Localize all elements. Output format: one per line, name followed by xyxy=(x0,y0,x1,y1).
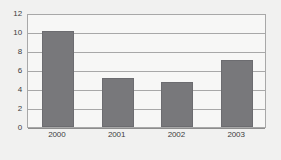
bar-2000 xyxy=(42,31,74,127)
y-axis-tick-label: 10 xyxy=(2,29,22,37)
x-axis-tick-label: 2001 xyxy=(108,131,125,139)
y-axis-tick-label: 6 xyxy=(2,67,22,75)
bar-2003 xyxy=(221,60,253,127)
plot-area xyxy=(27,14,266,128)
y-axis-tick-label: 4 xyxy=(2,86,22,94)
y-axis-tick-label: 2 xyxy=(2,105,22,113)
y-axis-tick-label: 8 xyxy=(2,48,22,56)
y-axis-tick-label: 12 xyxy=(2,10,22,18)
x-axis-tick-label: 2003 xyxy=(227,131,244,139)
gridline xyxy=(28,128,265,129)
bar-chart: 024681012 2000200120022003 xyxy=(0,0,281,160)
x-axis-tick-label: 2002 xyxy=(168,131,185,139)
y-axis-tick-label: 0 xyxy=(2,124,22,132)
bar-2002 xyxy=(161,82,193,127)
bar-series xyxy=(28,15,265,127)
x-axis-tick-label: 2000 xyxy=(48,131,65,139)
bar-2001 xyxy=(102,78,134,127)
